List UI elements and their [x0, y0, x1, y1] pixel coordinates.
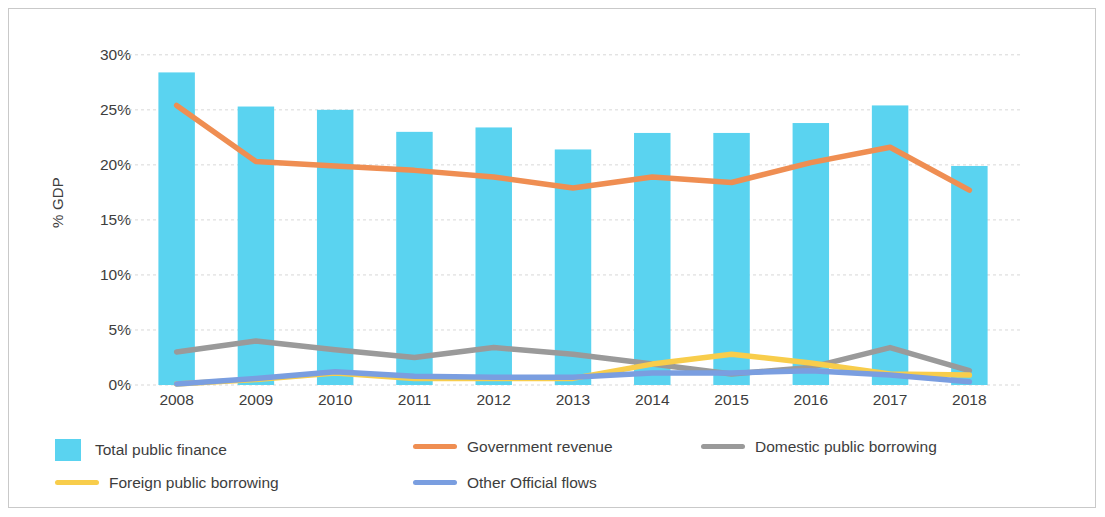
chart-canvas — [9, 9, 1097, 429]
x-axis-tick-label: 2011 — [374, 391, 454, 409]
chart-figure: % GDP 0%5%10%15%20%25%30% 20082009201020… — [8, 8, 1096, 508]
legend-item[interactable]: Government revenue — [413, 439, 613, 455]
legend-item[interactable]: Domestic public borrowing — [701, 439, 937, 455]
bar — [634, 133, 670, 385]
x-axis-tick-label: 2010 — [295, 391, 375, 409]
bar — [158, 72, 194, 385]
legend-square-icon — [55, 439, 81, 461]
bar — [317, 110, 353, 385]
legend-line-icon — [55, 480, 99, 485]
x-axis-tick-label: 2014 — [612, 391, 692, 409]
x-axis-tick-label: 2018 — [929, 391, 1009, 409]
legend-item-label: Other Official flows — [467, 475, 597, 491]
x-axis-ticks: 2008200920102011201220132014201520162017… — [9, 391, 1097, 421]
x-axis-tick-label: 2017 — [850, 391, 930, 409]
x-axis-tick-label: 2016 — [771, 391, 851, 409]
x-axis-tick-label: 2009 — [216, 391, 296, 409]
legend-item[interactable]: Other Official flows — [413, 475, 597, 491]
legend-line-icon — [701, 444, 745, 449]
x-axis-tick-label: 2015 — [692, 391, 772, 409]
legend-item[interactable]: Total public finance — [55, 439, 227, 461]
legend-item[interactable]: Foreign public borrowing — [55, 475, 279, 491]
legend-item-label: Total public finance — [95, 442, 227, 458]
bar — [713, 133, 749, 385]
x-axis-tick-label: 2008 — [137, 391, 217, 409]
bar — [951, 166, 987, 385]
legend-item-label: Government revenue — [467, 439, 613, 455]
legend-line-icon — [413, 444, 457, 449]
plot-area: % GDP 0%5%10%15%20%25%30% 20082009201020… — [9, 9, 1097, 429]
chart-legend: Total public financeGovernment revenueDo… — [9, 433, 1097, 507]
x-axis-tick-label: 2013 — [533, 391, 613, 409]
legend-item-label: Domestic public borrowing — [755, 439, 937, 455]
legend-item-label: Foreign public borrowing — [109, 475, 279, 491]
x-axis-tick-label: 2012 — [454, 391, 534, 409]
legend-line-icon — [413, 480, 457, 485]
